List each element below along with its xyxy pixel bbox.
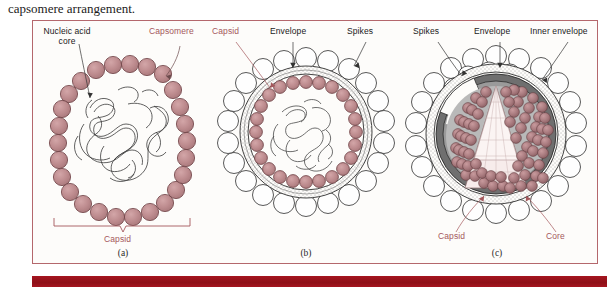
label-spikes-c: Spikes	[413, 27, 439, 37]
label-capsomere: Capsomere	[149, 27, 194, 37]
label-core-c: Core	[546, 232, 565, 242]
panel-c-drawing	[396, 20, 598, 264]
panel-a-drawing	[32, 20, 222, 264]
panel-a: Nucleic acid core Capsomere Capsid (a)	[32, 20, 222, 264]
panel-letter-a: (a)	[103, 248, 143, 258]
bottom-red-bar	[32, 276, 607, 287]
label-envelope-c: Envelope	[474, 27, 510, 37]
panel-c: Spikes Envelope Inner envelope Capsid Co…	[396, 20, 598, 264]
panel-b-drawing	[208, 20, 404, 264]
label-nucleic-acid-core: Nucleic acid core	[36, 27, 98, 46]
leader-spikes-b	[354, 42, 366, 66]
label-capsid-bracket: Capsid	[104, 235, 131, 245]
panel-letter-b: (b)	[286, 248, 326, 258]
label-capsid-b: Capsid	[212, 27, 239, 37]
label-spikes-b: Spikes	[347, 27, 373, 37]
caption-text: capsomere arrangement.	[8, 0, 408, 18]
nucleic-acid-strand	[75, 87, 169, 181]
panel-letter-c: (c)	[477, 248, 517, 258]
figure-page: capsomere arrangement.	[0, 0, 607, 296]
capsomere-ring-a	[49, 55, 195, 225]
label-inner-envelope-c: Inner envelope	[530, 27, 588, 37]
panel-b: Capsid Envelope Spikes (b)	[208, 20, 404, 264]
arrow-nucleic-acid	[87, 93, 92, 98]
label-capsid-c: Capsid	[438, 232, 465, 242]
label-envelope-b: Envelope	[270, 27, 306, 37]
